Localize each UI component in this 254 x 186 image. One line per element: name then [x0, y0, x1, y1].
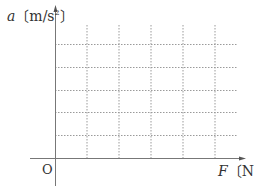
x-axis-label: F〔N〕	[218, 164, 254, 178]
x-axis-variable: F	[218, 163, 228, 179]
grid-horizontal-lines	[55, 45, 238, 136]
y-axis-unit-close: 〕	[60, 8, 74, 24]
y-axis-unit: 〔m/s	[15, 8, 54, 24]
y-axis-label: a〔m/s2〕	[7, 9, 74, 23]
acceleration-force-chart	[0, 0, 254, 186]
x-axis-arrow-icon	[239, 157, 246, 161]
origin-label: O	[42, 163, 53, 176]
x-axis-unit: 〔N〕	[228, 163, 254, 179]
